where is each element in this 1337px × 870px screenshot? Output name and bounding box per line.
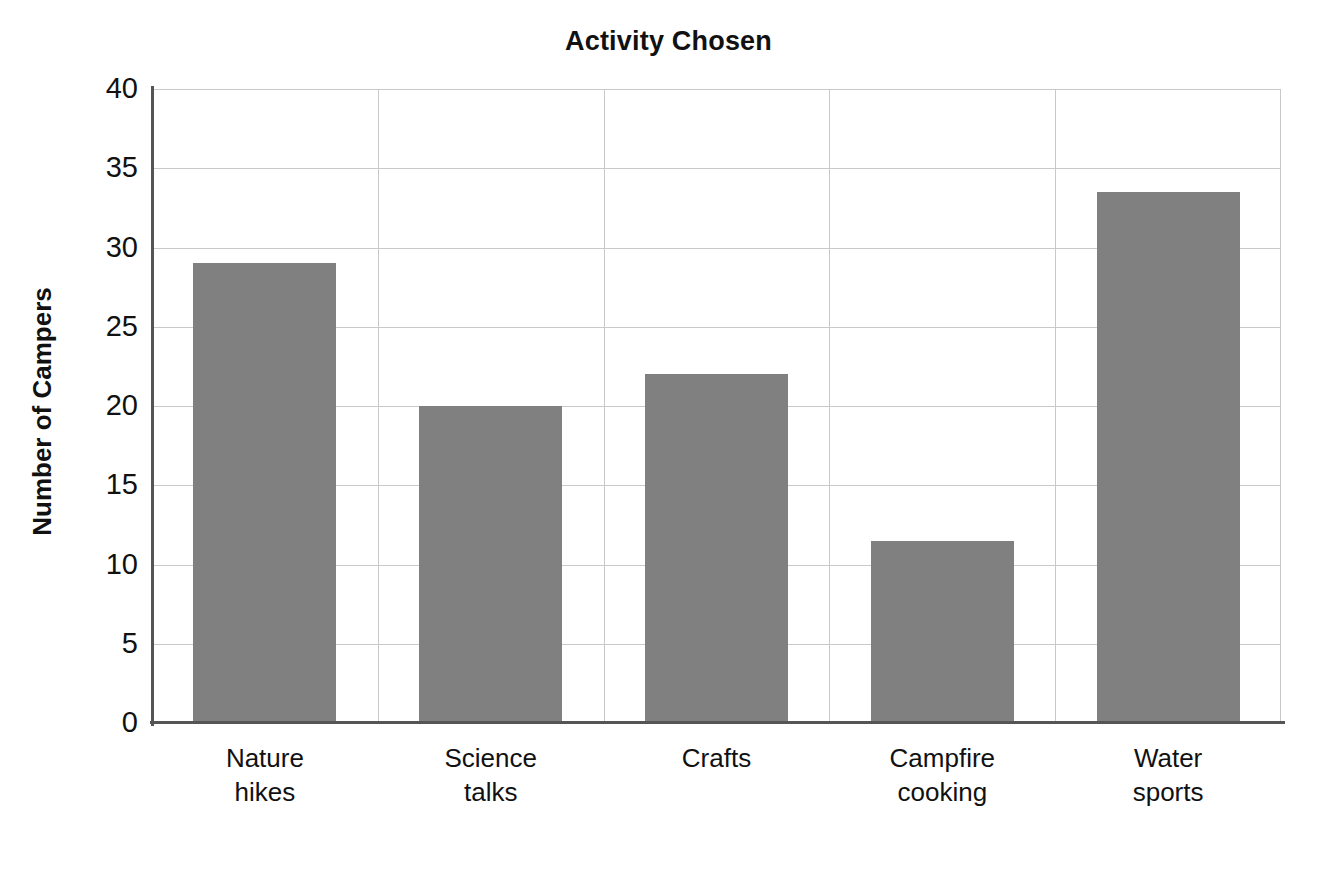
x-axis-category-label-line: talks	[378, 776, 604, 810]
x-axis-category-label-line: Water	[1055, 742, 1281, 776]
y-axis-tick-labels: 0510152025303540	[12, 0, 138, 870]
x-axis-line	[150, 721, 1285, 724]
x-axis-category-label-line: sports	[1055, 776, 1281, 810]
y-axis-line	[151, 86, 154, 726]
x-axis-category-label: Sciencetalks	[378, 742, 604, 810]
bar	[419, 406, 562, 723]
x-axis-category-label: Naturehikes	[152, 742, 378, 810]
gridline-vertical	[378, 89, 379, 723]
y-axis-tick-label: 30	[18, 233, 138, 262]
y-axis-tick-label: 15	[18, 470, 138, 499]
bar	[645, 374, 788, 723]
bar	[1097, 192, 1240, 723]
y-axis-tick-label: 5	[18, 629, 138, 658]
y-axis-tick-label: 25	[18, 312, 138, 341]
x-axis-category-label-line: Crafts	[604, 742, 830, 776]
gridline-horizontal	[152, 168, 1281, 169]
x-axis-category-label: Watersports	[1055, 742, 1281, 810]
x-axis-category-label-line: Campfire	[829, 742, 1055, 776]
x-axis-category-label: Crafts	[604, 742, 830, 776]
x-axis-category-label-line: hikes	[152, 776, 378, 810]
bar	[193, 263, 336, 723]
x-axis-category-label: Campfirecooking	[829, 742, 1055, 810]
gridline-vertical	[604, 89, 605, 723]
y-axis-tick-label: 40	[18, 74, 138, 103]
x-axis-category-label-line: cooking	[829, 776, 1055, 810]
y-axis-tick-label: 35	[18, 153, 138, 182]
y-axis-tick-label: 0	[18, 708, 138, 737]
chart-title: Activity Chosen	[0, 26, 1337, 57]
x-axis-category-label-line: Science	[378, 742, 604, 776]
bar	[871, 541, 1014, 723]
bar-chart: Activity Chosen Number of Campers 051015…	[0, 0, 1337, 870]
gridline-vertical	[829, 89, 830, 723]
gridline-horizontal	[152, 89, 1281, 90]
y-axis-tick-label: 20	[18, 391, 138, 420]
gridline-vertical	[1055, 89, 1056, 723]
y-axis-tick-label: 10	[18, 550, 138, 579]
plot-area	[152, 89, 1281, 723]
x-axis-category-label-line: Nature	[152, 742, 378, 776]
